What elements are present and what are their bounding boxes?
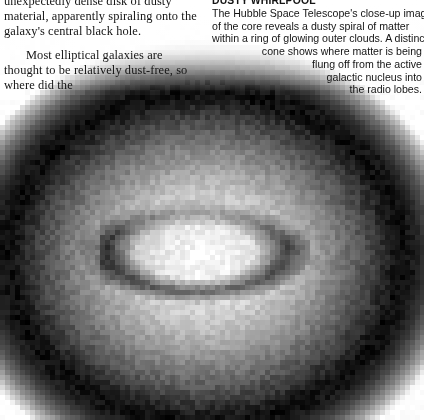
caption-line: flung off from the active [212, 58, 422, 71]
caption-line: galactic nucleus into [212, 71, 422, 84]
magazine-page: unexpectedly dense disk of dusty materia… [0, 0, 424, 420]
figure-caption-column: DUSTY WHIRLPOOL The Hubble Space Telesco… [212, 0, 422, 96]
caption-body: The Hubble Space Telescope's close-up im… [212, 7, 422, 96]
caption-line: The Hubble Space Telescope's close-up im… [212, 7, 422, 20]
caption-heading: DUSTY WHIRLPOOL [212, 0, 422, 6]
body-paragraph-2: Most elliptical galaxies are thought to … [4, 48, 204, 94]
caption-line: within a ring of glowing outer clouds. A… [212, 32, 422, 45]
caption-line: cone shows where matter is being [212, 45, 422, 58]
article-body-column: unexpectedly dense disk of dusty materia… [4, 0, 204, 93]
caption-line: of the core reveals a dusty spiral of ma… [212, 20, 422, 33]
body-paragraph-1: unexpectedly dense disk of dusty materia… [4, 0, 204, 40]
caption-line: the radio lobes. [212, 83, 422, 96]
